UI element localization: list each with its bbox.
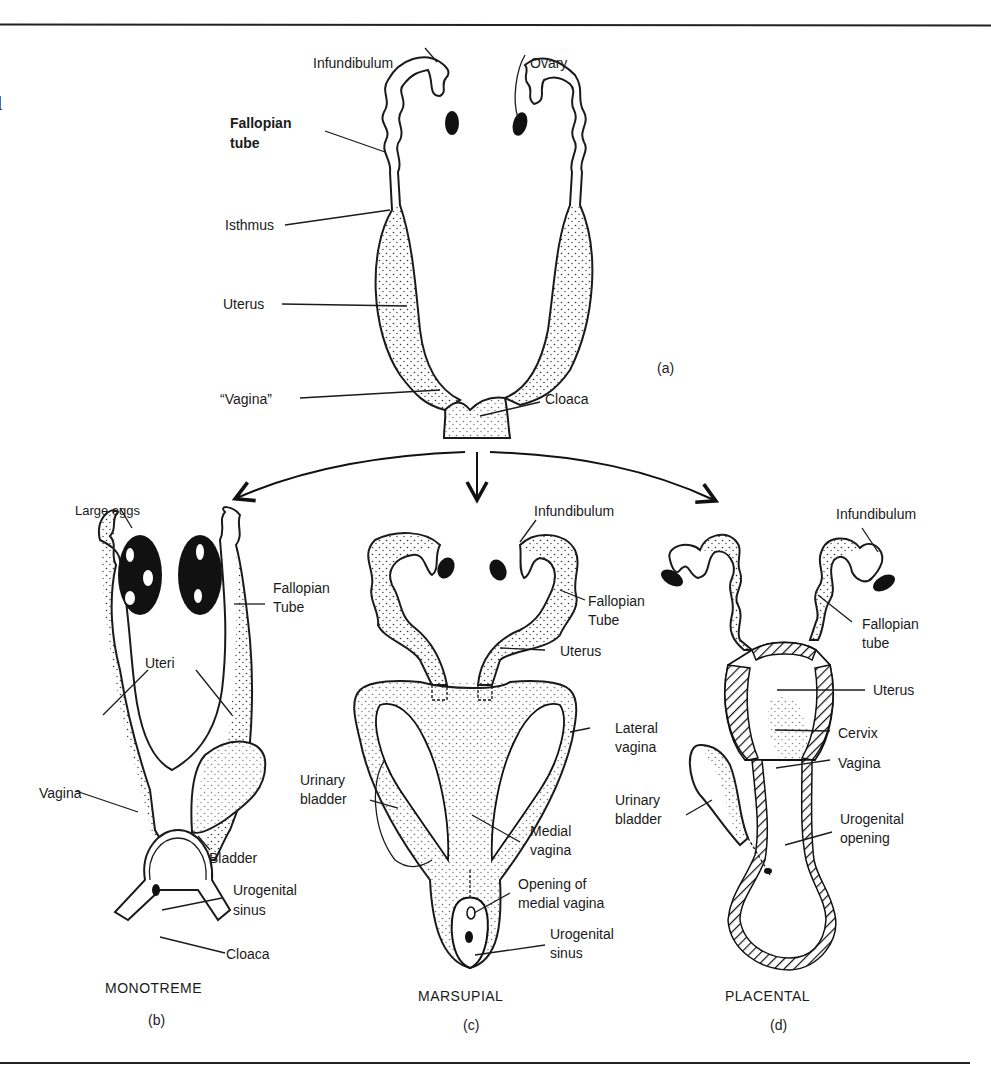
label-d-uterus: Uterus — [873, 682, 914, 698]
label-d-fallopian-1: Fallopian — [862, 616, 919, 632]
label-b-fallopian-1: Fallopian — [273, 580, 330, 596]
label-b-urogenital-1: Urogenital — [233, 882, 297, 898]
label-c-medial-2: vagina — [530, 842, 571, 858]
label-d-infundibulum: Infundibulum — [836, 506, 916, 522]
panel-d-title: PLACENTAL — [725, 988, 810, 1004]
label-c-lateral-2: vagina — [615, 739, 656, 755]
panel-c-title: MARSUPIAL — [418, 988, 503, 1004]
label-d-vagina: Vagina — [838, 755, 881, 771]
panel-a-drawing — [282, 48, 592, 438]
label-c-opening-2: medial vagina — [518, 895, 604, 911]
label-a-vagina: “Vagina” — [220, 391, 272, 407]
label-b-urogenital-2: sinus — [233, 902, 266, 918]
label-a-uterus: Uterus — [223, 296, 264, 312]
label-a-cloaca: Cloaca — [545, 391, 589, 407]
label-b-cloaca: Cloaca — [226, 946, 270, 962]
label-c-urogenital-1: Urogenital — [550, 926, 614, 942]
label-d-urogenital-2: opening — [840, 830, 890, 846]
panel-b-title: MONOTREME — [105, 980, 202, 996]
label-d-urinary-1: Urinary — [615, 792, 660, 808]
label-c-opening-1: Opening of — [518, 876, 587, 892]
label-c-urogenital-2: sinus — [550, 945, 583, 961]
label-a-isthmus: Isthmus — [225, 217, 274, 233]
panel-d-drawing — [658, 528, 898, 970]
label-d-cervix: Cervix — [838, 725, 878, 741]
label-d-fallopian-2: tube — [862, 635, 889, 651]
label-c-lateral-1: Lateral — [615, 720, 658, 736]
label-c-infundibulum: Infundibulum — [534, 503, 614, 519]
panel-b-tag: (b) — [148, 1012, 165, 1028]
label-d-urogenital-1: Urogenital — [840, 811, 904, 827]
label-c-urinary-2: bladder — [300, 791, 347, 807]
panel-c-tag: (c) — [463, 1017, 479, 1033]
diagram-artwork — [0, 0, 991, 1092]
label-c-medial-1: Medial — [530, 823, 571, 839]
label-a-infundibulum: Infundibulum — [313, 55, 393, 71]
evolution-arrows — [237, 452, 714, 500]
panel-a-tag: (a) — [657, 360, 674, 376]
label-c-fallopian-1: Fallopian — [588, 593, 645, 609]
label-b-large-eggs: Large eggs — [75, 503, 140, 519]
label-d-urinary-2: bladder — [615, 811, 662, 827]
label-b-fallopian-2: Tube — [273, 599, 304, 615]
label-a-fallopian-2: tube — [230, 135, 260, 151]
label-b-uteri: Uteri — [145, 655, 175, 671]
label-c-urinary-1: Urinary — [300, 772, 345, 788]
label-c-uterus: Uterus — [560, 643, 601, 659]
label-a-ovary: Ovary — [530, 55, 567, 71]
label-b-vagina: Vagina — [39, 785, 82, 801]
label-a-fallopian-1: Fallopian — [230, 115, 291, 131]
label-c-fallopian-2: Tube — [588, 612, 619, 628]
panel-d-tag: (d) — [770, 1017, 787, 1033]
label-b-bladder: Bladder — [209, 850, 257, 866]
